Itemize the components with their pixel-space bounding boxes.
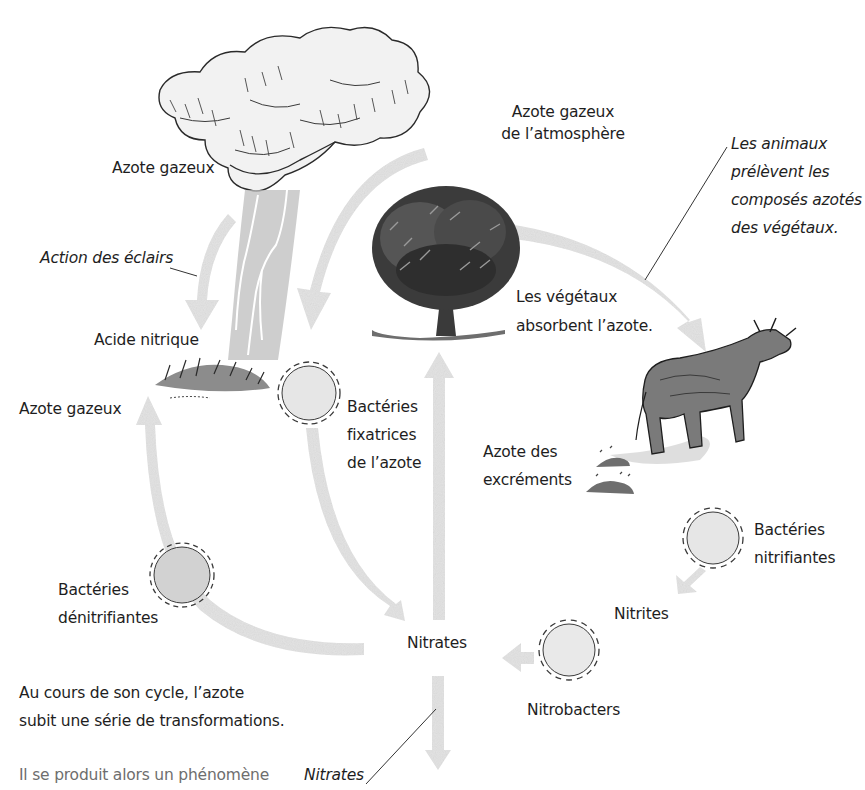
bacteria-nitrobacters-icon xyxy=(539,620,599,680)
label-azote-atmosphere: Azote gazeux de l’atmosphère xyxy=(498,101,628,145)
nitrogen-cycle-diagram: Azote gazeux Azote gazeux de l’atmosphèr… xyxy=(0,0,865,790)
label-bacteries-denitrifiantes: Bactéries dénitrifiantes xyxy=(58,576,158,632)
bacteria-nitrifiantes-icon xyxy=(683,508,743,568)
label-nitrates-callout: Nitrates xyxy=(304,764,364,786)
bacteria-fixatrices-icon xyxy=(278,362,340,424)
footnote-text: Il se produit alors un phénomène xyxy=(19,764,269,786)
label-acide-nitrique: Acide nitrique xyxy=(94,329,199,351)
label-bacteries-fixatrices: Bactéries fixatrices de l’azote xyxy=(347,393,421,477)
label-azote-gazeux-left: Azote gazeux xyxy=(19,398,121,420)
label-action-eclairs: Action des éclairs xyxy=(40,247,173,269)
label-nitrites: Nitrites xyxy=(614,603,669,625)
label-animaux: Les animaux prélèvent les composés azoté… xyxy=(731,130,862,242)
caption: Au cours de son cycle, l’azote subit une… xyxy=(19,679,284,735)
label-vegetaux: Les végétaux absorbent l’azote. xyxy=(516,283,653,341)
label-azote-gazeux-cloud: Azote gazeux xyxy=(112,157,214,179)
label-nitrates-center: Nitrates xyxy=(407,632,467,654)
label-azote-excrements: Azote des excréments xyxy=(483,438,572,494)
label-bacteries-nitrifiantes: Bactéries nitrifiantes xyxy=(754,516,835,572)
bacteria-denitrifiantes-icon xyxy=(150,543,214,607)
label-nitrobacters: Nitrobacters xyxy=(527,699,620,721)
bacteria-layer xyxy=(0,0,865,790)
